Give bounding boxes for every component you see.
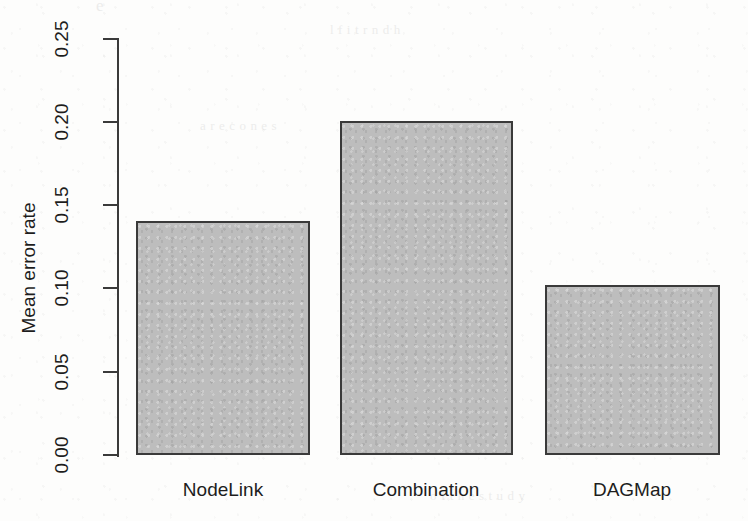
bar-dagmap[interactable] <box>545 285 720 455</box>
y-tick-0.20 <box>103 121 118 123</box>
ghost-text-row-a: l f i t r n d h <box>330 22 401 38</box>
y-tick-0.15 <box>103 204 118 206</box>
y-tick-0.25 <box>103 38 118 40</box>
bar-chart-figure: e l f i t r n d h a r e c o n e s t h e … <box>0 0 748 521</box>
ghost-text-top: e <box>96 0 104 16</box>
ghost-text-row-b: a r e c o n e s <box>200 118 277 134</box>
y-tick-0.10 <box>103 287 118 289</box>
y-tick-label-0.20: 0.20 <box>49 87 75 157</box>
x-tick-label-combination: Combination <box>346 479 506 501</box>
y-axis-line <box>117 38 119 457</box>
y-tick-label-0.00: 0.00 <box>49 420 75 490</box>
bar-fill-texture <box>547 287 718 453</box>
x-tick-label-nodelink: NodeLink <box>143 479 303 501</box>
y-tick-0.00 <box>103 454 118 456</box>
bar-combination[interactable] <box>340 121 513 455</box>
y-tick-label-0.25: 0.25 <box>49 4 75 74</box>
y-tick-label-0.15: 0.15 <box>49 170 75 240</box>
y-tick-label-0.05: 0.05 <box>49 337 75 407</box>
x-tick-label-dagmap: DAGMap <box>552 479 712 501</box>
y-tick-0.05 <box>103 371 118 373</box>
bar-fill-texture <box>138 223 308 453</box>
bar-fill-texture <box>342 123 511 453</box>
bar-nodelink[interactable] <box>136 221 310 455</box>
y-axis-title: Mean error rate <box>17 188 41 348</box>
y-tick-label-0.10: 0.10 <box>49 253 75 323</box>
